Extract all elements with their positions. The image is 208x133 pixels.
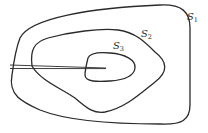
label-s2-subscript: 2 [148, 33, 152, 41]
curve-s2 [32, 29, 165, 112]
label-s1-subscript: 1 [194, 16, 198, 24]
label-s1-text: S [187, 11, 194, 22]
label-s3-text: S [113, 40, 120, 51]
label-s2: S2 [141, 29, 152, 41]
label-s1: S1 [187, 12, 198, 24]
curve-s1 [11, 5, 190, 124]
cut-line-upper [10, 65, 106, 68]
label-s2-text: S [141, 28, 148, 39]
diagram-canvas: S1 S2 S3 [0, 0, 208, 133]
nested-curves-figure [0, 0, 208, 133]
label-s3-subscript: 3 [120, 45, 124, 53]
curve-s3 [85, 53, 135, 82]
label-s3: S3 [113, 41, 124, 53]
